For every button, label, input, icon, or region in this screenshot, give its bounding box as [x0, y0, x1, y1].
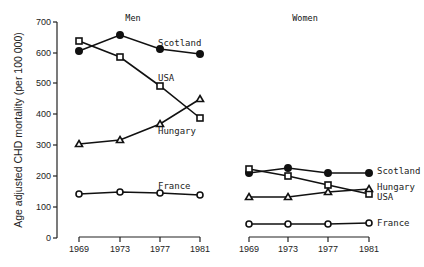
women-hungary-series [246, 186, 373, 200]
women-x-tick-1969: 1969 [239, 244, 259, 254]
women-x-tick-1973: 1973 [278, 244, 298, 254]
women-scotland-label: Scotland [377, 166, 420, 176]
women-scotland-series [246, 165, 372, 176]
men-hungary-series [76, 96, 204, 147]
women-panel: Women 1969 1973 1977 1981 [239, 13, 420, 254]
y-tick-300: 300 [36, 140, 51, 150]
women-france-label: France [377, 218, 410, 228]
men-x-tick-labels: 1969 1973 1977 1981 [69, 244, 210, 254]
women-usa-label: USA [377, 192, 394, 202]
y-tick-labels: 0 100 200 300 400 500 600 700 [36, 17, 51, 243]
y-tick-600: 600 [36, 48, 51, 58]
women-panel-title: Women [292, 13, 318, 23]
men-x-tick-1973: 1973 [110, 244, 130, 254]
y-tick-500: 500 [36, 78, 51, 88]
y-tick-0: 0 [46, 233, 51, 243]
y-tick-400: 400 [36, 109, 51, 119]
chd-mortality-chart: Age adjusted CHD mortality (per 100 000)… [0, 0, 424, 267]
men-panel: Men 1969 1973 1977 1981 [69, 13, 210, 254]
men-france-label: France [158, 181, 191, 191]
men-x-tick-1977: 1977 [150, 244, 170, 254]
women-x-tick-labels: 1969 1973 1977 1981 [239, 244, 379, 254]
women-france-series [246, 220, 372, 227]
women-hungary-label: Hungary [377, 182, 416, 192]
men-x-tick-1969: 1969 [69, 244, 89, 254]
men-scotland-label: Scotland [158, 38, 201, 48]
y-axis [53, 22, 57, 238]
women-x-axis [249, 237, 369, 242]
y-tick-200: 200 [36, 171, 51, 181]
men-x-axis [79, 237, 200, 242]
y-axis-title: Age adjusted CHD mortality (per 100 000) [12, 32, 24, 228]
men-usa-label: USA [158, 73, 175, 83]
y-tick-700: 700 [36, 17, 51, 27]
y-tick-100: 100 [36, 202, 51, 212]
women-x-tick-1981: 1981 [359, 244, 379, 254]
men-hungary-label: Hungary [158, 126, 197, 136]
men-x-tick-1981: 1981 [190, 244, 210, 254]
men-panel-title: Men [125, 13, 140, 23]
women-x-tick-1977: 1977 [318, 244, 338, 254]
